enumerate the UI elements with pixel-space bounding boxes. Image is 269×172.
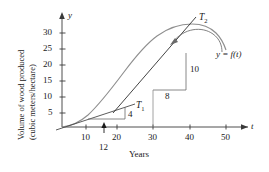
x-axis-title: Years bbox=[129, 150, 149, 159]
tangent-label-T1-subscript: 1 bbox=[141, 105, 144, 112]
x-tick-label-10: 10 bbox=[81, 133, 90, 142]
y-axis-title-line2: (cubic meters/hectare) bbox=[27, 64, 37, 140]
x-axis-symbol: t bbox=[251, 122, 254, 131]
x-tick-label-20: 20 bbox=[112, 133, 121, 142]
y-axis-title-line1: Volume of wood produced bbox=[16, 50, 26, 140]
y-tick-label-25: 25 bbox=[43, 44, 52, 53]
slope-value-8: 8 bbox=[165, 92, 170, 101]
callout-arc-f-of-t bbox=[170, 29, 222, 52]
y-tick-label-10: 10 bbox=[43, 92, 52, 101]
y-axis-symbol: y bbox=[68, 11, 72, 20]
axis-lines bbox=[59, 12, 248, 130]
function-label: y = f(t) bbox=[216, 50, 242, 59]
y-tick-label-30: 30 bbox=[43, 28, 52, 37]
tangent-label-T2-subscript: 2 bbox=[204, 17, 207, 24]
x-tick-label-40: 40 bbox=[185, 133, 194, 142]
x-marker-label-12: 12 bbox=[99, 143, 108, 152]
slope-triangle-T2 bbox=[153, 53, 186, 90]
y-tick-label-5: 5 bbox=[48, 108, 53, 117]
y-tick-label-15: 15 bbox=[43, 76, 52, 85]
x-tick-label-30: 30 bbox=[148, 133, 157, 142]
y-axis-ticks bbox=[60, 33, 66, 113]
graph-canvas bbox=[0, 0, 269, 172]
y-tick-label-20: 20 bbox=[43, 60, 52, 69]
x-axis-arrowhead bbox=[241, 124, 248, 130]
slope-value-4: 4 bbox=[128, 110, 133, 119]
slope-value-10: 10 bbox=[190, 65, 199, 74]
x-tick-label-50: 50 bbox=[221, 133, 230, 142]
marker-arrow-12 bbox=[101, 122, 106, 133]
figure-wood-volume-graph: y t 5 10 15 20 25 30 10 20 30 40 50 12 Y… bbox=[0, 0, 269, 172]
tangent-label-T1: T1 bbox=[136, 101, 145, 112]
y-axis-arrowhead bbox=[59, 12, 65, 19]
tangent-line-T2 bbox=[113, 17, 196, 113]
tangent-label-T2: T2 bbox=[199, 13, 208, 24]
